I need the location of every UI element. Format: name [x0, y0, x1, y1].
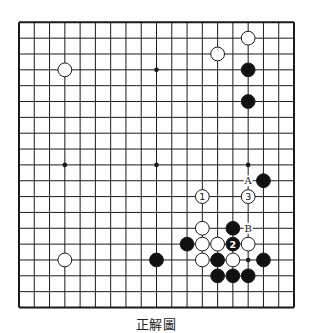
- white-stone: [241, 31, 255, 45]
- star-point: [63, 163, 68, 168]
- black-stone-icon: [226, 221, 240, 235]
- black-stone: [241, 63, 255, 77]
- black-stone-icon: [257, 174, 271, 188]
- move-number-label: 3: [245, 191, 251, 202]
- white-stone: [211, 237, 225, 251]
- black-stone-icon: [211, 269, 225, 283]
- white-stone: [241, 237, 255, 251]
- black-stone: [226, 269, 240, 283]
- black-stone-icon: [257, 253, 271, 267]
- go-board: AB132: [0, 0, 312, 312]
- black-stone: [150, 253, 164, 267]
- white-stone-icon: [211, 237, 225, 251]
- white-stone-icon: [241, 31, 255, 45]
- white-stone-icon: [58, 253, 72, 267]
- marker-label-b: B: [244, 223, 251, 234]
- black-stone: [211, 269, 225, 283]
- star-point: [154, 68, 159, 73]
- white-stone: [195, 221, 209, 235]
- diagram-caption: 正解圖: [0, 314, 312, 333]
- black-stone: [241, 269, 255, 283]
- white-stone-icon: [226, 253, 240, 267]
- black-stone-icon: [226, 269, 240, 283]
- marker-label-a: A: [244, 175, 253, 186]
- black-stone-icon: [241, 63, 255, 77]
- black-stone: [257, 174, 271, 188]
- black-stone-icon: [211, 253, 225, 267]
- star-point: [246, 163, 251, 168]
- move-number-label: 2: [230, 239, 237, 250]
- black-stone-icon: [180, 237, 194, 251]
- black-stone-icon: [241, 95, 255, 109]
- go-board-diagram: AB132: [0, 0, 312, 312]
- white-stone-icon: [211, 47, 225, 61]
- white-stone: [211, 47, 225, 61]
- white-stone: [195, 237, 209, 251]
- star-point: [246, 258, 251, 263]
- move-number-label: 1: [199, 191, 205, 202]
- star-point: [154, 163, 159, 168]
- black-stone: [226, 221, 240, 235]
- white-stone-icon: [58, 63, 72, 77]
- white-stone: [58, 63, 72, 77]
- white-stone: [58, 253, 72, 267]
- black-stone: [180, 237, 194, 251]
- black-stone: [241, 95, 255, 109]
- white-stone: [226, 253, 240, 267]
- white-stone: 3: [241, 190, 255, 204]
- black-stone: [211, 253, 225, 267]
- white-stone-icon: [195, 253, 209, 267]
- black-stone-icon: [150, 253, 164, 267]
- stones: 132: [58, 31, 270, 282]
- white-stone: [195, 253, 209, 267]
- white-stone: 1: [195, 190, 209, 204]
- white-stone-icon: [241, 237, 255, 251]
- black-stone: [257, 253, 271, 267]
- white-stone-icon: [195, 221, 209, 235]
- black-stone: 2: [226, 237, 240, 251]
- white-stone-icon: [195, 237, 209, 251]
- black-stone-icon: [241, 269, 255, 283]
